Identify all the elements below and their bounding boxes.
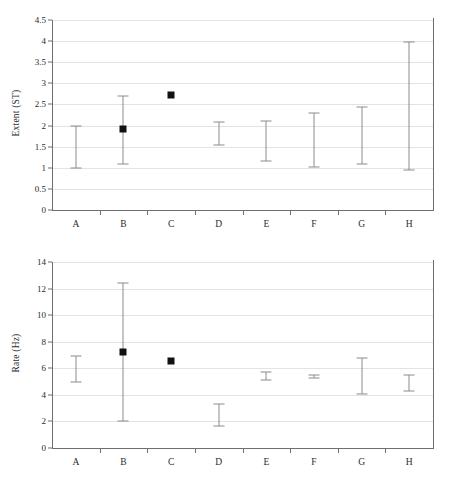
- y-axis-tick-label: 3.5: [35, 58, 46, 67]
- error-bar-cap-e-upper: [261, 121, 272, 122]
- gridline: [52, 262, 433, 263]
- error-bar-cap-b-upper: [118, 96, 129, 97]
- x-axis-label-g: G: [358, 219, 365, 229]
- x-axis-tick-mark: [195, 211, 196, 215]
- error-bar-cap-h-upper: [404, 374, 415, 375]
- error-bar-cap-a-lower: [70, 167, 81, 168]
- x-axis-label-g: G: [358, 457, 365, 467]
- x-axis-tick-mark: [385, 449, 386, 453]
- error-bar-cap-f-upper: [308, 374, 319, 375]
- error-bar-h: [409, 375, 410, 391]
- x-axis-label-f: F: [311, 219, 316, 229]
- y-axis-tick-label: 4.5: [35, 16, 46, 25]
- error-bar-cap-g-upper: [356, 358, 367, 359]
- error-bar-cap-f-upper: [308, 112, 319, 113]
- x-axis-label-e: E: [263, 219, 269, 229]
- y-axis-line: [52, 262, 53, 449]
- error-bar-cap-a-upper: [70, 125, 81, 126]
- x-axis-label-h: H: [406, 457, 413, 467]
- error-bar-cap-b-upper: [118, 282, 129, 283]
- x-axis-label-b: B: [120, 457, 126, 467]
- y-axis-tick-label: 10: [37, 311, 46, 320]
- y-axis-title-rate: Rate (Hz): [11, 323, 21, 383]
- gridline: [52, 83, 433, 84]
- gridline: [52, 147, 433, 148]
- x-axis-label-h: H: [406, 219, 413, 229]
- gridline: [52, 368, 433, 369]
- error-bar-a: [75, 126, 76, 168]
- x-axis-label-d: D: [215, 457, 222, 467]
- data-marker-c: [168, 357, 175, 364]
- error-bar-f: [313, 113, 314, 167]
- data-marker-b: [120, 349, 127, 356]
- x-axis-tick-mark: [243, 449, 244, 453]
- y-axis-tick-label: 3: [42, 79, 47, 88]
- x-axis-tick-mark: [290, 449, 291, 453]
- gridline: [52, 189, 433, 190]
- error-bar-cap-e-upper: [261, 372, 272, 373]
- error-bar-cap-g-upper: [356, 106, 367, 107]
- plot-area-rate: [52, 262, 433, 448]
- data-marker-b: [120, 125, 127, 132]
- gridline: [52, 126, 433, 127]
- figure-two-panel-chart: Extent (ST) 00.511.522.533.544.5ABCDEFGH…: [0, 0, 454, 487]
- gridline: [52, 104, 433, 105]
- y-axis-tick-label: 2: [42, 417, 47, 426]
- y-axis-tick-label: 12: [37, 284, 46, 293]
- error-bar-cap-b-lower: [118, 421, 129, 422]
- error-bar-cap-a-lower: [70, 381, 81, 382]
- y-axis-title-extent: Extent (ST): [11, 83, 21, 143]
- x-axis-tick-mark: [147, 449, 148, 453]
- y-axis-tick-label: 8: [42, 337, 47, 346]
- x-axis-label-b: B: [120, 219, 126, 229]
- y-axis-tick-label: 4: [42, 37, 47, 46]
- y-axis-tick-label: 1.5: [35, 142, 46, 151]
- x-axis-tick-mark: [290, 211, 291, 215]
- gridline: [52, 168, 433, 169]
- x-axis-tick-mark: [147, 211, 148, 215]
- gridline: [52, 41, 433, 42]
- error-bar-cap-f-lower: [308, 378, 319, 379]
- error-bar-cap-d-upper: [213, 121, 224, 122]
- x-axis-tick-mark: [100, 211, 101, 215]
- x-axis-tick-mark: [385, 211, 386, 215]
- error-bar-d: [218, 404, 219, 427]
- panel-rate: Rate (Hz) 02468101214ABCDEFGH: [0, 244, 454, 487]
- error-bar-cap-d-lower: [213, 144, 224, 145]
- y-axis-tick-label: 2: [42, 121, 47, 130]
- error-bar-cap-f-lower: [308, 167, 319, 168]
- error-bar-cap-h-upper: [404, 41, 415, 42]
- error-bar-a: [75, 356, 76, 381]
- y-axis-tick-label: 0: [42, 444, 47, 453]
- plot-area-extent: [52, 20, 433, 210]
- x-axis-label-a: A: [72, 219, 79, 229]
- x-axis-tick-mark: [338, 449, 339, 453]
- x-axis-label-d: D: [215, 219, 222, 229]
- y-axis-tick-label: 0.5: [35, 184, 46, 193]
- gridline: [52, 421, 433, 422]
- error-bar-cap-g-lower: [356, 394, 367, 395]
- x-axis-tick-mark: [243, 211, 244, 215]
- error-bar-cap-e-lower: [261, 380, 272, 381]
- error-bar-cap-a-upper: [70, 356, 81, 357]
- gridline: [52, 342, 433, 343]
- error-bar-cap-g-lower: [356, 163, 367, 164]
- x-axis-tick-mark: [338, 211, 339, 215]
- error-bar-cap-e-lower: [261, 161, 272, 162]
- error-bar-h: [409, 42, 410, 171]
- error-bar-cap-h-lower: [404, 390, 415, 391]
- x-axis-tick-mark: [100, 449, 101, 453]
- gridline: [52, 315, 433, 316]
- error-bar-cap-d-lower: [213, 426, 224, 427]
- y-axis-tick-label: 4: [42, 390, 47, 399]
- error-bar-cap-h-lower: [404, 170, 415, 171]
- y-axis-tick-label: 6: [42, 364, 47, 373]
- error-bar-e: [266, 121, 267, 161]
- x-axis-label-f: F: [311, 457, 316, 467]
- y-axis-tick-label: 1: [42, 163, 47, 172]
- plot-right-edge: [433, 18, 434, 211]
- gridline: [52, 62, 433, 63]
- error-bar-cap-b-lower: [118, 164, 129, 165]
- error-bar-g: [361, 358, 362, 394]
- x-axis-label-a: A: [72, 457, 79, 467]
